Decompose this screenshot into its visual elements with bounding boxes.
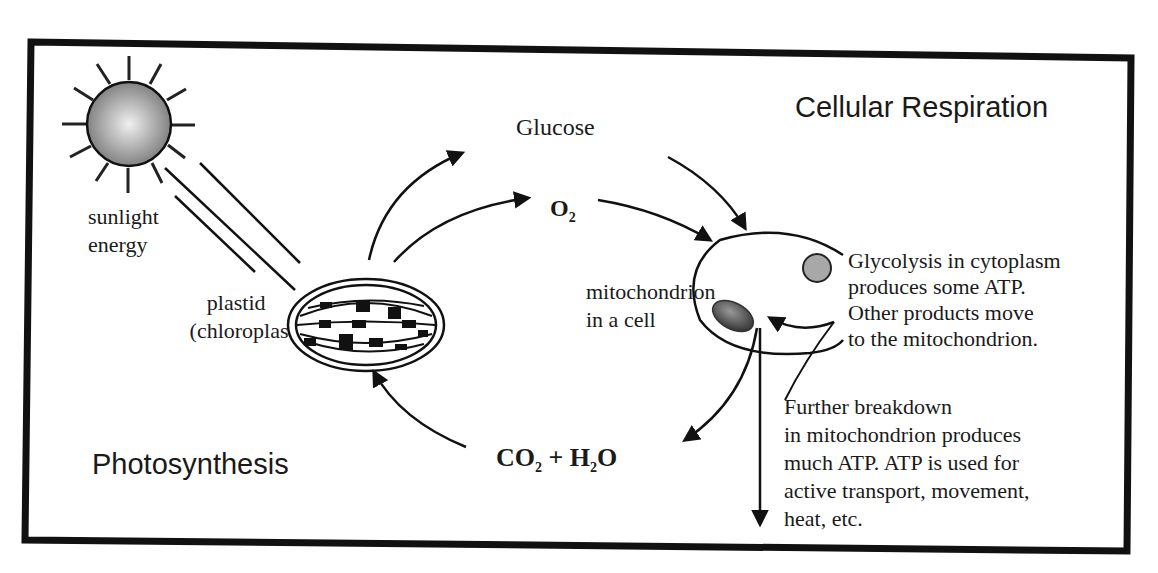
cytoplasm-granule-icon	[803, 254, 831, 282]
leader-lines	[785, 322, 834, 400]
co2-h2o-label: CO2 + H2O	[496, 443, 617, 475]
oxygen-label: O2	[550, 195, 576, 225]
sun-icon	[62, 56, 195, 193]
arrow-to-oxygen	[394, 198, 528, 262]
arrow-to-co2-h2o	[685, 328, 757, 440]
sunlight-label: sunlight energy	[88, 204, 164, 257]
photosynthesis-respiration-diagram: sunlight energy plastid (chloroplast)	[0, 0, 1158, 573]
glycolysis-description: Glycolysis in cytoplasm produces some AT…	[848, 248, 1066, 351]
mitochondrion-label: mitochondrion in a cell	[586, 279, 721, 332]
arrow-products-to-mitochondrion	[770, 318, 834, 328]
arrow-glucose-to-cell	[668, 157, 745, 228]
chloroplast-icon	[288, 279, 444, 371]
arrow-to-chloroplast	[374, 372, 466, 447]
further-breakdown-description: Further breakdown in mitochondrion produ…	[784, 394, 1035, 531]
cellular-respiration-title: Cellular Respiration	[795, 91, 1048, 123]
glucose-label: Glucose	[516, 114, 595, 140]
plastid-label: plastid (chloroplast)	[190, 290, 302, 343]
arrow-oxygen-to-cell	[598, 200, 710, 240]
arrow-to-glucose	[369, 153, 462, 260]
sunlight-beams	[165, 163, 300, 290]
photosynthesis-title: Photosynthesis	[92, 448, 289, 480]
